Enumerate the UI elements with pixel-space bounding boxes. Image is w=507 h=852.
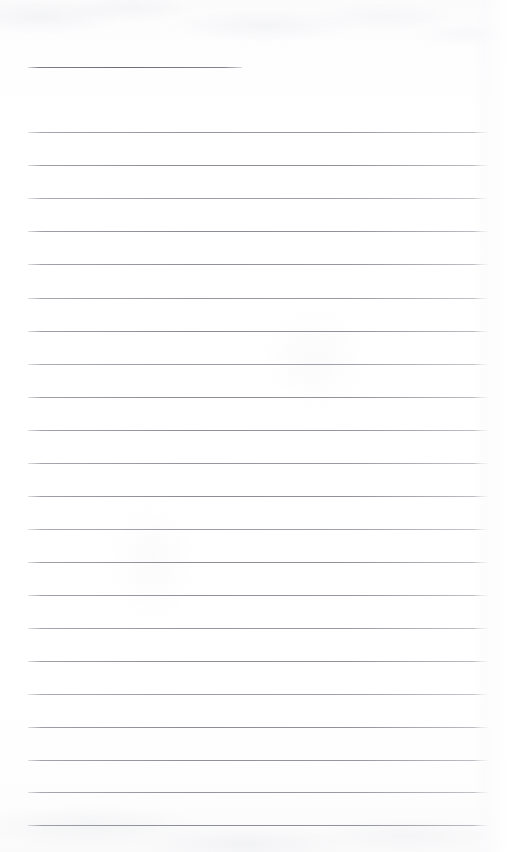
rule-line bbox=[28, 430, 488, 431]
rule-line bbox=[28, 496, 488, 497]
rule-line bbox=[28, 825, 488, 826]
rule-line bbox=[28, 264, 488, 265]
rule-line bbox=[28, 628, 488, 629]
rule-line bbox=[28, 198, 488, 199]
rule-line bbox=[28, 595, 488, 596]
scanned-page bbox=[0, 0, 507, 852]
rule-line bbox=[28, 331, 488, 332]
rule-line bbox=[28, 792, 488, 793]
rule-line bbox=[28, 529, 488, 530]
rule-line bbox=[28, 661, 488, 662]
rule-line bbox=[28, 132, 488, 133]
scan-texture bbox=[0, 0, 507, 852]
rule-line bbox=[28, 694, 488, 695]
rule-line bbox=[28, 727, 488, 728]
rule-line bbox=[28, 231, 488, 232]
rule-line bbox=[28, 364, 488, 365]
rule-line bbox=[28, 760, 488, 761]
title-rule bbox=[28, 67, 242, 68]
page-edge-shading bbox=[473, 0, 507, 852]
rule-line bbox=[28, 397, 488, 398]
rule-line bbox=[28, 562, 488, 563]
rule-line bbox=[28, 463, 488, 464]
rule-line bbox=[28, 165, 488, 166]
rule-line bbox=[28, 298, 488, 299]
